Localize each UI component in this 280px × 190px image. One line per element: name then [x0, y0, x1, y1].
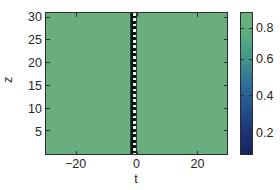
colorbar-tick-right-0.4	[249, 95, 252, 96]
ytick-mark-right-20	[224, 62, 228, 63]
ytick-mark-right-5	[224, 130, 228, 131]
xtick-mark-top-0	[137, 13, 138, 17]
ytick-mark-10	[46, 108, 50, 109]
xtick-mark-top-20	[197, 13, 198, 17]
colorbar-tick-0.8	[241, 28, 244, 29]
ytick-mark-15	[46, 85, 50, 86]
xtick-mark-0	[137, 151, 138, 155]
xtick-mark--20	[76, 151, 77, 155]
ytick-label-25: 25	[28, 33, 42, 46]
ytick-label-30: 30	[28, 10, 42, 23]
colorbar	[240, 12, 253, 155]
xtick-label-20: 20	[191, 158, 205, 171]
y-axis-label: z	[2, 77, 15, 83]
x-axis-label: t	[134, 173, 137, 186]
colorbar-tick-right-0.6	[249, 59, 252, 60]
colorbar-label-0.8: 0.8	[256, 22, 273, 35]
colorbar-tick-right-0.8	[249, 28, 252, 29]
colorbar-tick-right-0.2	[249, 131, 252, 132]
ytick-label-20: 20	[28, 56, 42, 69]
colorbar-label-0.4: 0.4	[256, 90, 273, 103]
ytick-mark-right-30	[224, 17, 228, 18]
ytick-mark-right-10	[224, 108, 228, 109]
heatmap-axes	[45, 12, 228, 155]
ytick-mark-right-15	[224, 85, 228, 86]
ytick-mark-right-25	[224, 39, 228, 40]
colorbar-tick-0.2	[241, 131, 244, 132]
colorbar-tick-0.4	[241, 95, 244, 96]
figure-canvas: −20 0 20 5 10 15 20 25 30 t z 0.8 0.6 0.…	[0, 0, 280, 190]
ytick-label-15: 15	[28, 79, 42, 92]
colorbar-label-0.6: 0.6	[256, 53, 273, 66]
ytick-mark-25	[46, 39, 50, 40]
xtick-label-0: 0	[133, 158, 140, 171]
ytick-mark-20	[46, 62, 50, 63]
ytick-mark-30	[46, 17, 50, 18]
xtick-mark-top--20	[76, 13, 77, 17]
dashed-guide-line	[133, 13, 136, 154]
xtick-mark-20	[197, 151, 198, 155]
ytick-mark-5	[46, 130, 50, 131]
colorbar-tick-0.6	[241, 59, 244, 60]
colorbar-label-0.2: 0.2	[256, 127, 273, 140]
ytick-label-10: 10	[28, 103, 42, 116]
xtick-label--20: −20	[65, 158, 86, 171]
ytick-label-5: 5	[35, 126, 42, 139]
